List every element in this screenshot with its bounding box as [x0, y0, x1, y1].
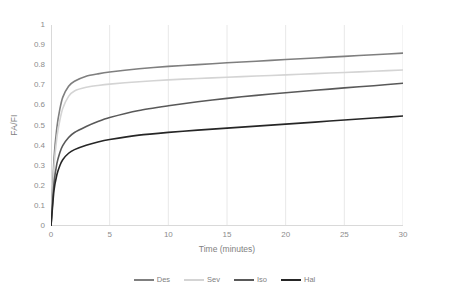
plot-svg [51, 25, 403, 226]
x-axis-tick-label: 0 [31, 231, 71, 239]
legend-swatch-icon [134, 279, 154, 281]
legend-item-sev[interactable]: Sev [184, 276, 220, 284]
x-axis-tick-label: 30 [383, 231, 423, 239]
x-axis-tick-label: 10 [148, 231, 188, 239]
legend-item-hal[interactable]: Hal [281, 276, 315, 284]
legend-item-iso[interactable]: Iso [234, 276, 267, 284]
y-axis-tick-label: 0.7 [5, 81, 45, 89]
legend-swatch-icon [184, 279, 204, 281]
legend-item-des[interactable]: Des [134, 276, 170, 284]
line-chart: 1 0.9 0.8 0.7 0.6 0.5 0.4 0.3 0.2 0.1 0 … [0, 0, 449, 304]
x-axis-tick-label: 5 [90, 231, 130, 239]
y-axis-title: FA/FI [9, 114, 19, 135]
x-axis-tick-label: 15 [207, 231, 247, 239]
y-axis-tick-label: 0.1 [5, 202, 45, 210]
y-axis-tick-label: 0.8 [5, 61, 45, 69]
x-axis-title: Time (minutes) [199, 244, 255, 254]
chart-legend: Des Sev Iso Hal [0, 276, 449, 284]
legend-label: Hal [304, 276, 315, 284]
y-axis-tick-label: 0.3 [5, 162, 45, 170]
x-axis-tick-label: 25 [324, 231, 364, 239]
legend-label: Des [157, 276, 170, 284]
y-axis-tick-label: 0 [5, 222, 45, 230]
plot-area [51, 25, 403, 226]
y-axis-tick-label: 0.9 [5, 41, 45, 49]
y-axis-tick-label: 0.2 [5, 182, 45, 190]
legend-label: Iso [257, 276, 267, 284]
legend-label: Sev [207, 276, 220, 284]
y-axis-tick-label: 1 [5, 21, 45, 29]
y-axis-tick-label: 0.6 [5, 101, 45, 109]
y-axis-tick-label: 0.4 [5, 142, 45, 150]
legend-swatch-icon [234, 279, 254, 281]
x-axis-tick-label: 20 [266, 231, 306, 239]
legend-swatch-icon [281, 279, 301, 281]
